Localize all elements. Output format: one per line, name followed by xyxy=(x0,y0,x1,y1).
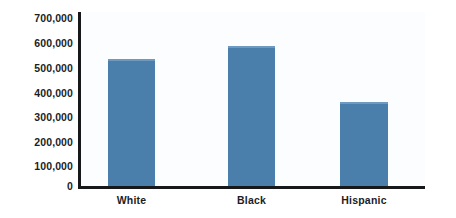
x-axis-category-labels: White Black Hispanic xyxy=(0,0,456,218)
x-axis-label-black: Black xyxy=(208,194,295,206)
bar-chart: 700,000 600,000 500,000 400,000 300,000 … xyxy=(0,0,456,218)
x-axis-label-white: White xyxy=(88,194,175,206)
x-axis-label-hispanic: Hispanic xyxy=(320,194,408,206)
